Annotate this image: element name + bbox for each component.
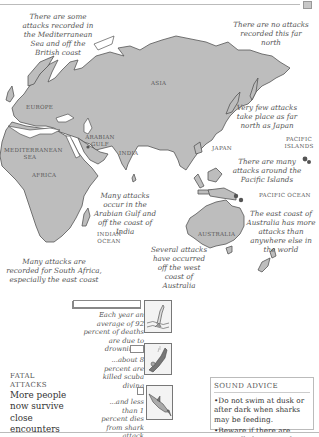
attack-dot-pacific bbox=[239, 198, 243, 202]
label-asia: Asia bbox=[151, 80, 166, 87]
note-east-australia: The east coast of Australia has more att… bbox=[245, 209, 317, 254]
label-mediterranean-sea: Mediterranean Sea bbox=[4, 147, 56, 161]
stat-bar-scuba-8 bbox=[130, 345, 144, 353]
madagascar bbox=[82, 208, 90, 226]
note-west-australia: Several attacks have occurred off the we… bbox=[148, 245, 210, 290]
australia-landmass bbox=[186, 200, 244, 248]
shark-icon bbox=[146, 385, 173, 420]
label-indian-ocean: Indian Ocean bbox=[97, 231, 121, 245]
sumatra bbox=[194, 174, 204, 188]
label-japan: Japan bbox=[212, 145, 232, 152]
label-pacific-islands: Pacific Islands bbox=[283, 136, 315, 150]
scuba-diver-icon bbox=[144, 343, 172, 375]
fatal-heading-line1: Fatal bbox=[10, 372, 47, 381]
label-pacific-ocean: Pacific ocean bbox=[259, 192, 311, 199]
britain bbox=[6, 86, 14, 102]
label-arabian-gulf: Arabian Gulf bbox=[85, 134, 115, 148]
fatal-attacks-heading: Fatal attacks bbox=[10, 372, 47, 390]
shark-attack-map-page: There are some attacks recorded in the M… bbox=[0, 0, 319, 437]
bottom-rule bbox=[0, 432, 319, 433]
tasmania bbox=[226, 246, 232, 254]
new-zealand-south bbox=[258, 258, 270, 272]
attack-dot-pacific bbox=[303, 157, 308, 162]
lake-shape bbox=[94, 36, 114, 50]
sound-advice-divider bbox=[214, 392, 310, 393]
note-far-north: There are no attacks recorded this far n… bbox=[232, 20, 310, 47]
borneo bbox=[208, 168, 222, 182]
drowning-swimmer-icon bbox=[144, 300, 172, 333]
note-mediterranean: There are some attacks recorded in the M… bbox=[20, 12, 96, 57]
stat-scuba-text: ...about 8 percent are killed scuba divi… bbox=[86, 356, 144, 390]
attack-dot-pacific bbox=[307, 160, 311, 164]
fatal-attacks-body: More people now survive close encounters… bbox=[10, 390, 82, 437]
label-europe: Europe bbox=[26, 104, 53, 111]
label-africa: Africa bbox=[32, 172, 56, 179]
label-india: India bbox=[119, 150, 138, 157]
sound-advice-list: Do not swim at dusk or after dark when s… bbox=[214, 396, 314, 437]
note-pacific-islands: There are many attacks around the Pacifi… bbox=[232, 157, 302, 184]
stat-bar-shark-1 bbox=[137, 387, 144, 395]
note-japan: Very few attacks take place as far north… bbox=[232, 103, 302, 130]
sound-advice-title: Sound advice bbox=[214, 382, 278, 390]
note-arabian-gulf: Many attacks occur in the Arabian Gulf a… bbox=[90, 191, 160, 236]
attack-dot-pacific bbox=[234, 194, 238, 198]
label-australia: Australia bbox=[198, 231, 235, 238]
note-south-africa: Many attacks are recorded for South Afri… bbox=[6, 257, 102, 284]
advice-item: Do not swim at dusk or after dark when s… bbox=[214, 396, 314, 424]
new-guinea bbox=[208, 188, 236, 200]
sri-lanka bbox=[132, 174, 136, 182]
fatal-heading-line2: attacks bbox=[10, 381, 47, 390]
stat-bar-drowning-92 bbox=[73, 300, 141, 308]
